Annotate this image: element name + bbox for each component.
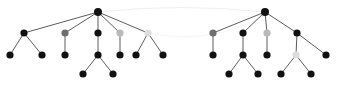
tree-node bbox=[293, 29, 300, 36]
tree-node bbox=[38, 51, 45, 58]
tree-edge bbox=[281, 55, 296, 74]
tree-edge bbox=[83, 55, 98, 74]
tree-edge bbox=[296, 55, 311, 74]
tree-node bbox=[292, 51, 299, 58]
tree-node bbox=[79, 70, 86, 77]
tree-node bbox=[109, 70, 116, 77]
diagram-canvas bbox=[0, 0, 347, 89]
tree-node bbox=[209, 29, 216, 36]
tree-node bbox=[144, 29, 151, 36]
tree-edge bbox=[243, 55, 258, 74]
tree-edge bbox=[24, 33, 42, 55]
tree-node bbox=[6, 51, 13, 58]
root-link-arc bbox=[98, 8, 265, 13]
tree-edge bbox=[148, 33, 163, 55]
tree-edge bbox=[24, 12, 98, 33]
tree-node bbox=[61, 29, 68, 36]
tree-node bbox=[254, 70, 261, 77]
tree-node bbox=[263, 29, 270, 36]
edges-layer bbox=[10, 12, 326, 74]
tree-edge bbox=[65, 12, 98, 33]
tree-node bbox=[116, 51, 123, 58]
tree-edge bbox=[136, 33, 148, 55]
tree-node bbox=[239, 51, 246, 58]
tree-edge bbox=[10, 33, 24, 55]
tree-edge bbox=[98, 12, 148, 33]
tree-node bbox=[94, 29, 101, 36]
tree-node bbox=[20, 29, 27, 36]
tree-node bbox=[132, 51, 139, 58]
tree-edge bbox=[297, 33, 326, 55]
tree-root-node bbox=[94, 8, 102, 16]
tree-node bbox=[94, 51, 101, 58]
tree-diagram-figure bbox=[0, 0, 347, 89]
tree-node bbox=[307, 70, 314, 77]
tree-edge bbox=[243, 12, 265, 33]
tree-edge bbox=[98, 55, 113, 74]
tree-edge bbox=[213, 12, 265, 33]
tree-edge bbox=[265, 12, 297, 33]
tree-node bbox=[263, 51, 270, 58]
tree-node bbox=[61, 51, 68, 58]
tree-node bbox=[159, 51, 166, 58]
tree-node bbox=[225, 70, 232, 77]
tree-root-node bbox=[261, 8, 269, 16]
tree-node bbox=[239, 29, 246, 36]
tree-node bbox=[277, 70, 284, 77]
tree-node bbox=[209, 51, 216, 58]
tree-node bbox=[322, 51, 329, 58]
tree-node bbox=[116, 29, 123, 36]
nodes-layer bbox=[6, 8, 329, 78]
